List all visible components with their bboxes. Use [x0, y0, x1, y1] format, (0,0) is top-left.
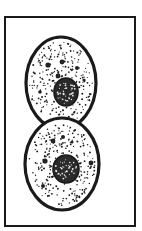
- cell-division-figure: Two adjoining rounded cells with stipple…: [0, 0, 142, 231]
- top-cell-nucleus: [54, 78, 78, 106]
- top-cell: [26, 37, 96, 129]
- figure-canvas: [0, 0, 142, 231]
- bottom-cell-nucleus: [53, 155, 79, 183]
- cells-group: [25, 37, 99, 210]
- bottom-cell: [25, 118, 99, 210]
